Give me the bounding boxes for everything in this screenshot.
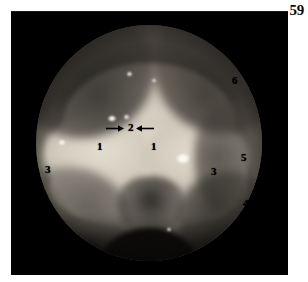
spec-right-fold: [176, 154, 190, 163]
spec-left-fold: [59, 140, 65, 145]
page-number: 59: [289, 2, 304, 18]
spec-lower: [167, 228, 171, 231]
photo-plate: 11233456: [11, 11, 288, 275]
spec-top-right: [152, 79, 156, 82]
spec-top-center: [127, 72, 132, 76]
spec-mid-left: [108, 116, 116, 121]
endoscope-field-of-view: [36, 25, 262, 261]
spec-mid-center: [124, 115, 129, 119]
figure-page: 59 11233456: [0, 0, 308, 282]
